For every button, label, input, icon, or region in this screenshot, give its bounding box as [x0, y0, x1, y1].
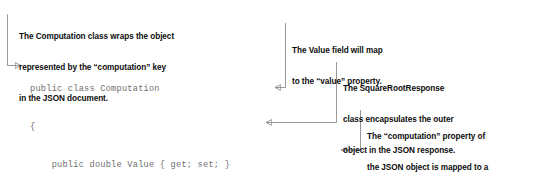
- callout-computation-property-mapped: The “computation” property of the JSON o…: [367, 111, 488, 183]
- callout-line: The Value field will map: [292, 46, 383, 56]
- code-line: public double Value { get; set; }: [30, 159, 290, 172]
- callout-line: The “computation” property of: [367, 132, 488, 142]
- callout-line: the JSON object is mapped to a: [367, 163, 488, 173]
- figure-canvas: The Computation class wraps the object r…: [0, 0, 538, 183]
- code-line: {: [30, 121, 290, 134]
- callout-line: The SquareRootResponse: [343, 84, 455, 94]
- code-listing: public class Computation { public double…: [30, 58, 290, 183]
- code-line: public class Computation: [30, 83, 290, 96]
- callout-line: The Computation class wraps the object: [19, 32, 174, 42]
